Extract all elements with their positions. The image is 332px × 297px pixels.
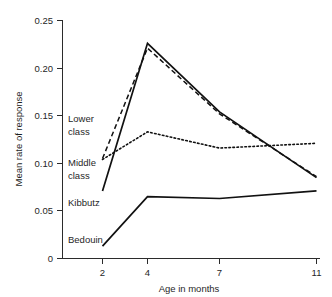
y-tick-label: 0.20: [35, 63, 54, 74]
x-tick-label: 4: [145, 267, 150, 278]
y-tick-label: 0.25: [35, 15, 54, 26]
x-tick-label: 11: [312, 267, 322, 278]
series-label-middle-class-line1: Middle: [68, 157, 96, 168]
series-label-lower-class-line2: class: [68, 126, 90, 137]
y-tick-label: 0.15: [35, 110, 54, 121]
x-tick-label: 2: [100, 267, 105, 278]
series-label-bedouin: Bedouin: [68, 234, 103, 245]
y-tick-label: 0.05: [35, 205, 54, 216]
line-chart: 0 0.05 0.10 0.15 0.20 0.25 2 4 7 11 Age …: [0, 0, 332, 297]
x-axis-title: Age in months: [159, 283, 220, 294]
y-axis-title: Mean rate of response: [13, 91, 24, 186]
series-label-lower-class-line1: Lower: [68, 113, 94, 124]
series-label-middle-class-line2: class: [68, 170, 90, 181]
y-tick-label: 0.10: [35, 158, 54, 169]
series-label-kibbutz: Kibbutz: [68, 197, 100, 208]
y-tick-label: 0: [48, 253, 53, 264]
chart-container: 0 0.05 0.10 0.15 0.20 0.25 2 4 7 11 Age …: [0, 0, 332, 297]
x-tick-label: 7: [217, 267, 222, 278]
